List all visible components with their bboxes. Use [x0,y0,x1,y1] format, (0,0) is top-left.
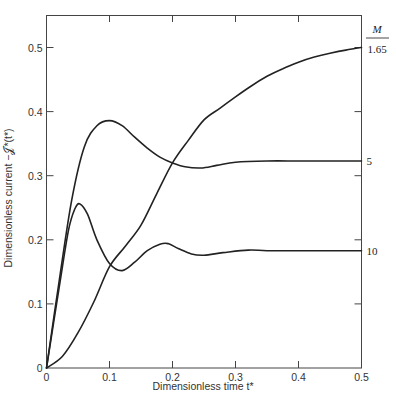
x-tick-label: 0.4 [291,371,306,383]
axis-ticks [47,16,362,369]
plot-frame [47,16,362,369]
series-line-10 [47,204,362,368]
series-label: 1.65 [367,43,387,55]
y-tick-label: 0.1 [28,298,43,310]
data-series [47,48,362,369]
series-labels: 1.65510 [367,43,388,257]
x-tick-label: 0.1 [102,371,117,383]
series-label: 5 [367,155,373,167]
right-axis-label-m: M [371,23,382,35]
series-line-5 [47,121,362,368]
y-tick-label: 0.3 [28,170,43,182]
series-line-1-65 [47,48,362,369]
y-tick-label: 0 [37,362,43,374]
chart-container: 00.10.20.30.40.5 00.10.20.30.40.5 1.6551… [0,0,396,405]
y-tick-labels: 00.10.20.30.40.5 [28,42,43,375]
y-tick-label: 0.2 [28,234,43,246]
x-tick-label: 0.5 [354,371,369,383]
y-tick-label: 0.4 [28,106,43,118]
y-tick-label: 0.5 [28,42,43,54]
y-axis-title: Dimensionless current −𝒥*(t*) [2,128,15,267]
x-tick-label: 0 [44,371,50,383]
series-label: 10 [367,245,379,257]
x-axis-title: Dimensionless time t* [153,380,254,392]
line-chart: 00.10.20.30.40.5 00.10.20.30.40.5 1.6551… [0,0,396,405]
